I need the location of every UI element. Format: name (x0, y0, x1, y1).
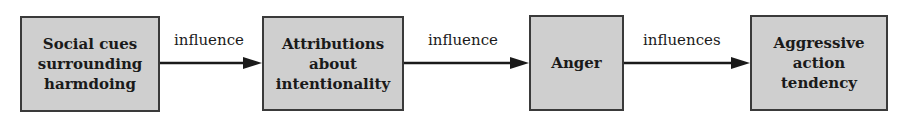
node-aggressive-action: Aggressive action tendency (750, 15, 888, 111)
node-social-cues: Social cues surrounding harmdoing (20, 16, 160, 112)
edge-label-influence-2: influence (428, 31, 498, 49)
arrow-attributions-to-anger (404, 57, 529, 69)
node-social-cues-label: Social cues surrounding harmdoing (38, 34, 143, 94)
edge-label-influence-1: influence (174, 31, 244, 49)
node-anger: Anger (529, 15, 624, 111)
arrow-social-cues-to-attributions (160, 57, 262, 69)
arrow-anger-to-aggressive-action (624, 57, 750, 69)
node-attributions: Attributions about intentionality (262, 16, 404, 111)
node-attributions-label: Attributions about intentionality (276, 34, 390, 94)
node-aggressive-action-label: Aggressive action tendency (774, 33, 865, 93)
node-anger-label: Anger (551, 53, 601, 73)
edge-label-influences: influences (643, 31, 721, 49)
